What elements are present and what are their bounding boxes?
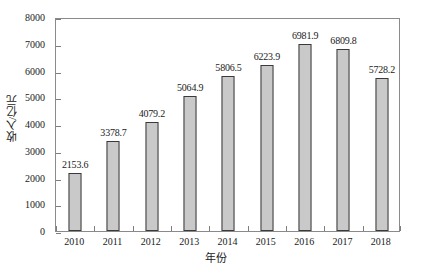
bar-value-label: 2153.6 [62,159,88,170]
x-axis-tick-labels: 201020112012201320142015201620172018 [55,236,400,250]
y-axis-tick-label: 0 [40,227,45,237]
bar-group: 6981.9 [286,19,324,231]
y-axis-tick-label: 6000 [25,67,45,77]
x-axis-tick-label: 2015 [256,236,276,248]
y-axis-tick-label: 4000 [25,120,45,130]
bar [69,173,82,231]
x-axis-tick-label: 2012 [141,236,161,248]
bar-group: 6809.8 [324,19,362,231]
bar-value-label: 5064.9 [177,82,203,93]
y-axis-tick-labels: 010002000300040005000600070008000 [0,18,50,232]
bar [260,65,273,231]
x-axis-title-text: 年份 [205,252,227,264]
bar [375,78,388,231]
plot-area: 2153.63378.74079.25064.95806.56223.96981… [55,18,400,232]
bar [107,141,120,231]
bar-group: 3378.7 [94,19,132,231]
y-axis-tick-label: 3000 [25,147,45,157]
x-axis-tick-label: 2016 [294,236,314,248]
bar-group: 5806.5 [209,19,247,231]
x-axis-tick-label: 2018 [371,236,391,248]
bar [337,49,350,231]
x-axis-tick-label: 2013 [179,236,199,248]
y-axis-tick-label: 2000 [25,174,45,184]
bar-value-label: 3378.7 [100,127,126,138]
bar-group: 2153.6 [56,19,94,231]
x-axis-tick-label: 2017 [333,236,353,248]
y-axis-tick-label: 7000 [25,40,45,50]
bar-value-label: 4079.2 [139,108,165,119]
y-axis-tick-label: 5000 [25,93,45,103]
bar-group: 6223.9 [248,19,286,231]
x-axis-tick-label: 2011 [103,236,123,248]
bar [145,122,158,231]
bar-value-label: 6981.9 [292,30,318,41]
bar-group: 4079.2 [133,19,171,231]
bar-value-label: 6809.8 [330,35,356,46]
x-axis-title: 年份 [0,252,421,265]
y-axis-tick [56,233,61,234]
bar-group: 5728.2 [363,19,401,231]
y-axis-tick-label: 1000 [25,200,45,210]
bar-value-label: 5806.5 [215,62,241,73]
bar [222,76,235,231]
bar-group: 5064.9 [171,19,209,231]
x-axis-tick-label: 2010 [64,236,84,248]
x-axis-tick-label: 2014 [218,236,238,248]
bar [299,44,312,231]
y-axis-tick-label: 8000 [25,13,45,23]
bar-chart-figure: 收入/亿元 010002000300040005000600070008000 … [0,0,421,280]
bar [184,96,197,231]
bar-value-label: 6223.9 [254,51,280,62]
bar-value-label: 5728.2 [369,64,395,75]
bars-layer: 2153.63378.74079.25064.95806.56223.96981… [56,19,399,231]
